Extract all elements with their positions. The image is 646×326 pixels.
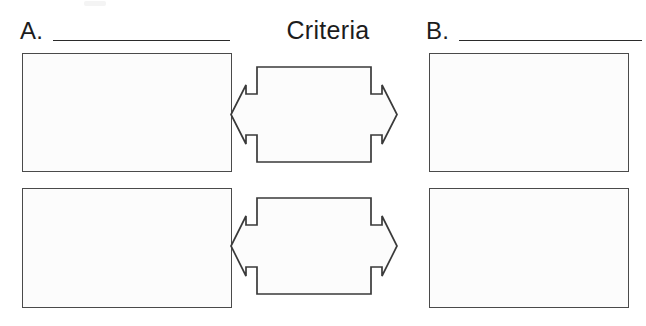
column-a-blank-input[interactable] bbox=[53, 40, 230, 41]
worksheet-canvas: A. Criteria B. bbox=[0, 0, 646, 326]
column-b-heading: B. bbox=[426, 14, 642, 48]
column-b-label: B. bbox=[426, 19, 449, 43]
answer-box-b2[interactable] bbox=[429, 188, 629, 308]
double-headed-arrow-icon bbox=[229, 195, 399, 297]
column-b-blank-input[interactable] bbox=[459, 40, 642, 41]
answer-box-a1[interactable] bbox=[22, 53, 232, 172]
column-a-heading: A. bbox=[20, 14, 230, 48]
double-headed-arrow-icon bbox=[229, 64, 399, 165]
answer-box-a2[interactable] bbox=[22, 188, 232, 308]
criteria-box-2[interactable] bbox=[229, 195, 399, 297]
scan-artifact bbox=[84, 1, 106, 6]
header-row: A. Criteria B. bbox=[0, 14, 646, 48]
criteria-title: Criteria bbox=[240, 14, 416, 48]
column-a-label: A. bbox=[20, 19, 43, 43]
answer-box-b1[interactable] bbox=[429, 53, 629, 172]
criteria-box-1[interactable] bbox=[229, 64, 399, 165]
